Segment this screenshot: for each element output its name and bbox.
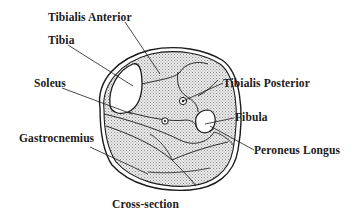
label-soleus: Soleus — [34, 78, 66, 90]
diagram-caption: Cross-section — [112, 199, 179, 211]
label-tibialis-anterior: Tibialis Anterior — [48, 12, 132, 24]
label-tibia: Tibia — [48, 35, 75, 47]
fibula-bone — [196, 110, 216, 133]
leg-cross-section-diagram: Tibialis Anterior Tibia Soleus Tibialis … — [0, 0, 357, 213]
label-tibialis-posterior: Tibialis Posterior — [223, 78, 310, 90]
leader-line-tibia — [68, 45, 133, 86]
label-fibula: Fibula — [235, 112, 268, 124]
cross-section-illustration — [0, 0, 357, 213]
label-peroneus-longus: Peroneus Longus — [254, 145, 340, 157]
label-gastrocnemius: Gastrocnemius — [19, 133, 94, 145]
